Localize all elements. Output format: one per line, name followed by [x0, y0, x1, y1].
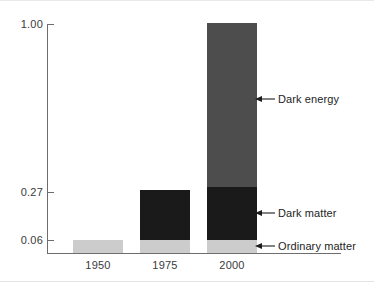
x-tick-label-1950: 1950 [68, 259, 128, 271]
bar-2000-ordinary-matter [207, 240, 257, 253]
y-tick-label-2: 0.06 [3, 234, 43, 246]
left-arrow-icon [255, 93, 275, 105]
figure-top-rule [0, 0, 374, 1]
x-tick-label-2000: 2000 [202, 259, 262, 271]
y-tick-mark-1 [48, 192, 54, 193]
annotation-dark-energy: Dark energy [255, 92, 339, 106]
annotation-label-ordinary-matter: Ordinary matter [278, 240, 356, 252]
x-tick-label-1975: 1975 [135, 259, 195, 271]
bar-1975-dark-matter [140, 190, 190, 240]
annotation-ordinary-matter: Ordinary matter [255, 239, 356, 253]
y-tick-mark-0 [48, 24, 54, 25]
annotation-dark-matter: Dark matter [255, 206, 337, 220]
annotation-label-dark-energy: Dark energy [278, 93, 339, 105]
figure-bottom-rule [0, 281, 374, 282]
y-tick-mark-2 [48, 240, 54, 241]
annotation-label-dark-matter: Dark matter [278, 207, 337, 219]
x-axis-line [47, 253, 341, 254]
chart-figure: 1.00 0.27 0.06 1950 1975 2000 Dark energ… [0, 0, 374, 289]
y-tick-label-0: 1.00 [3, 18, 43, 30]
bar-1950-ordinary-matter [73, 240, 123, 253]
bar-2000-dark-energy [207, 23, 257, 187]
bar-1975-ordinary-matter [140, 240, 190, 253]
bar-2000-dark-matter [207, 187, 257, 240]
left-arrow-icon [255, 207, 275, 219]
y-tick-label-1: 0.27 [3, 186, 43, 198]
y-axis-line [47, 24, 48, 254]
left-arrow-icon [255, 240, 275, 252]
